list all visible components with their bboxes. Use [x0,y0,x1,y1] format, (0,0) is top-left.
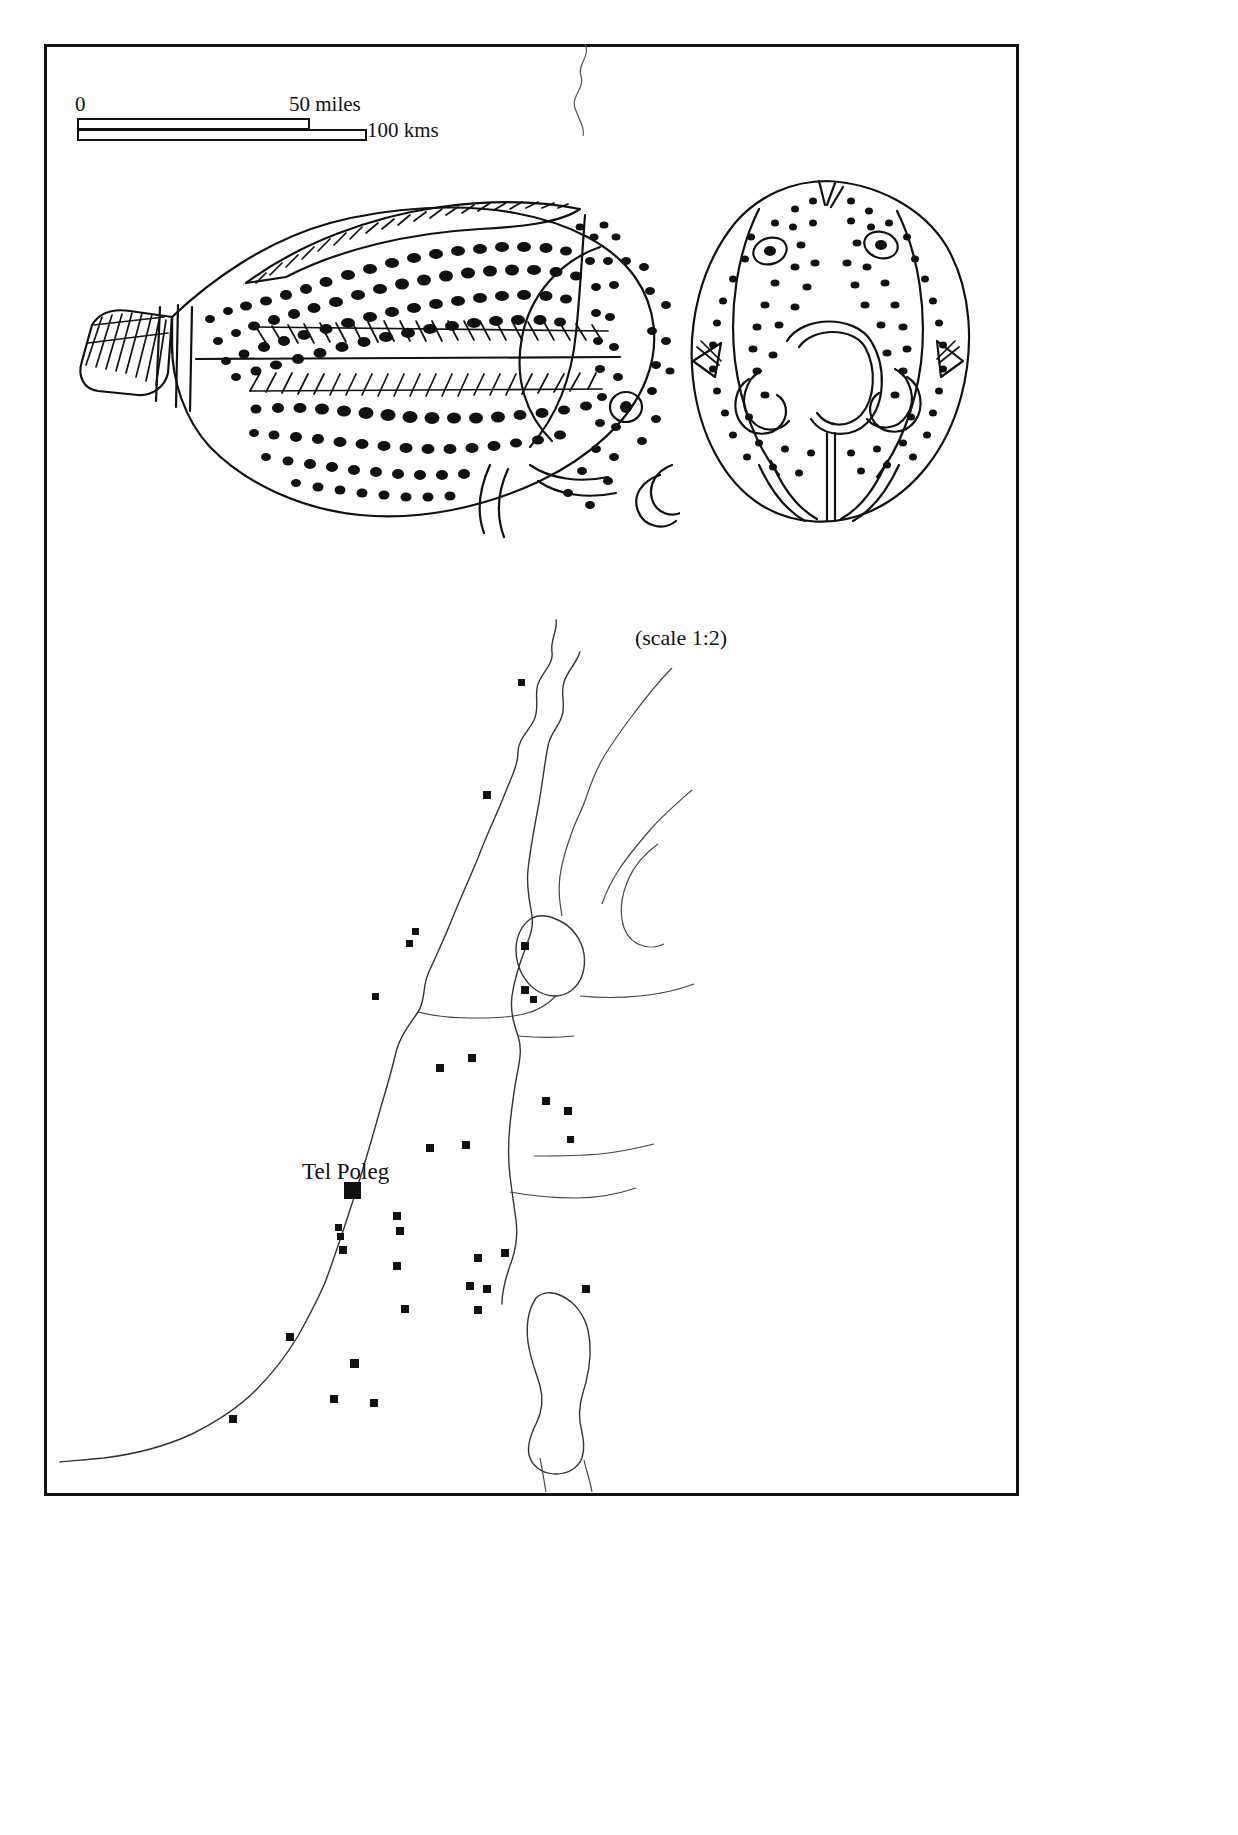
site-marker [426,1144,434,1152]
site-marker [393,1262,401,1270]
site-marker [564,1107,572,1115]
site-marker [401,1305,409,1313]
site-marker [530,996,537,1003]
site-marker [474,1306,482,1314]
site-marker [412,928,419,935]
site-marker [542,1097,550,1105]
site-marker [483,791,491,799]
site-marker [462,1141,470,1149]
site-marker [521,986,529,994]
site-marker [436,1064,444,1072]
site-marker [468,1054,476,1062]
site-marker [518,679,525,686]
site-marker [339,1246,347,1254]
site-marker [406,940,413,947]
site-marker [335,1224,342,1231]
site-marker [521,942,529,950]
site-marker [370,1399,378,1407]
site-marker-main [344,1182,361,1199]
site-marker [393,1212,401,1220]
site-marker [483,1285,491,1293]
figure-page: 0 50 miles 100 kms [0,0,1238,1835]
site-marker [330,1395,338,1403]
site-marker [567,1136,574,1143]
site-marker [229,1415,237,1423]
site-marker [474,1254,482,1262]
site-marker [372,993,379,1000]
site-marker [396,1227,404,1235]
site-marker [286,1333,294,1341]
site-marker [582,1285,590,1293]
site-markers-layer [0,0,1238,1835]
site-marker [337,1233,344,1240]
site-marker [350,1359,359,1368]
site-marker [466,1282,474,1290]
site-marker [501,1249,509,1257]
